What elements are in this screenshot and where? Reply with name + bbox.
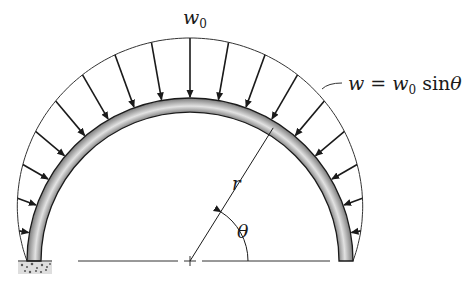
load-arrow [151,42,161,99]
load-arrow [56,101,85,135]
load-arrow [352,231,361,233]
fixed-support-ground [18,261,52,274]
load-arrow [344,198,362,205]
equation-leader-line [322,83,342,89]
load-arrow [23,165,48,180]
arch-load-diagram: w0 w = w0 sinθ r θ [0,0,472,287]
distributed-load-arrows [18,38,363,233]
load-arrow [332,165,357,180]
load-arrow [83,75,108,119]
load-arrow [316,131,345,155]
load-arrow [18,198,36,205]
load-arrow [115,55,134,107]
base-line [78,256,330,266]
radius-label: r [232,173,242,194]
load-equation-label: w = w0 sinθ [348,72,462,97]
load-arrow [36,131,65,155]
peak-load-label: w0 [183,6,207,31]
load-arrow [272,75,297,119]
radius-line [190,128,273,261]
load-arrow [295,101,324,135]
angle-label: θ [237,220,249,242]
load-arrow [246,55,265,107]
load-arrow [19,231,28,233]
semicircular-arch [27,98,353,261]
load-arrow [218,42,228,99]
